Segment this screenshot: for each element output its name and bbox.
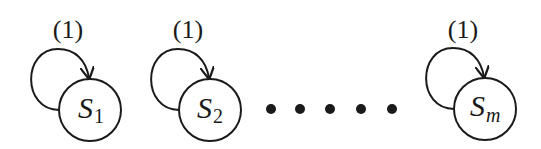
dot (356, 104, 366, 114)
dot (387, 104, 397, 114)
dot (266, 104, 276, 114)
ellipsis-dots (266, 104, 397, 114)
state-node-s1: (1) S1 (31, 15, 121, 141)
state-circle-sm (454, 78, 516, 140)
loop-label-s2: (1) (173, 15, 203, 44)
state-node-s2: (1) S2 (151, 15, 241, 141)
state-node-sm: (1) Sm (426, 15, 516, 140)
dot (325, 104, 335, 114)
loop-label-s1: (1) (53, 15, 83, 44)
dot (295, 104, 305, 114)
markov-chain-diagram: (1) S1 (1) S2 (1) Sm (0, 0, 541, 149)
loop-label-sm: (1) (448, 15, 478, 44)
